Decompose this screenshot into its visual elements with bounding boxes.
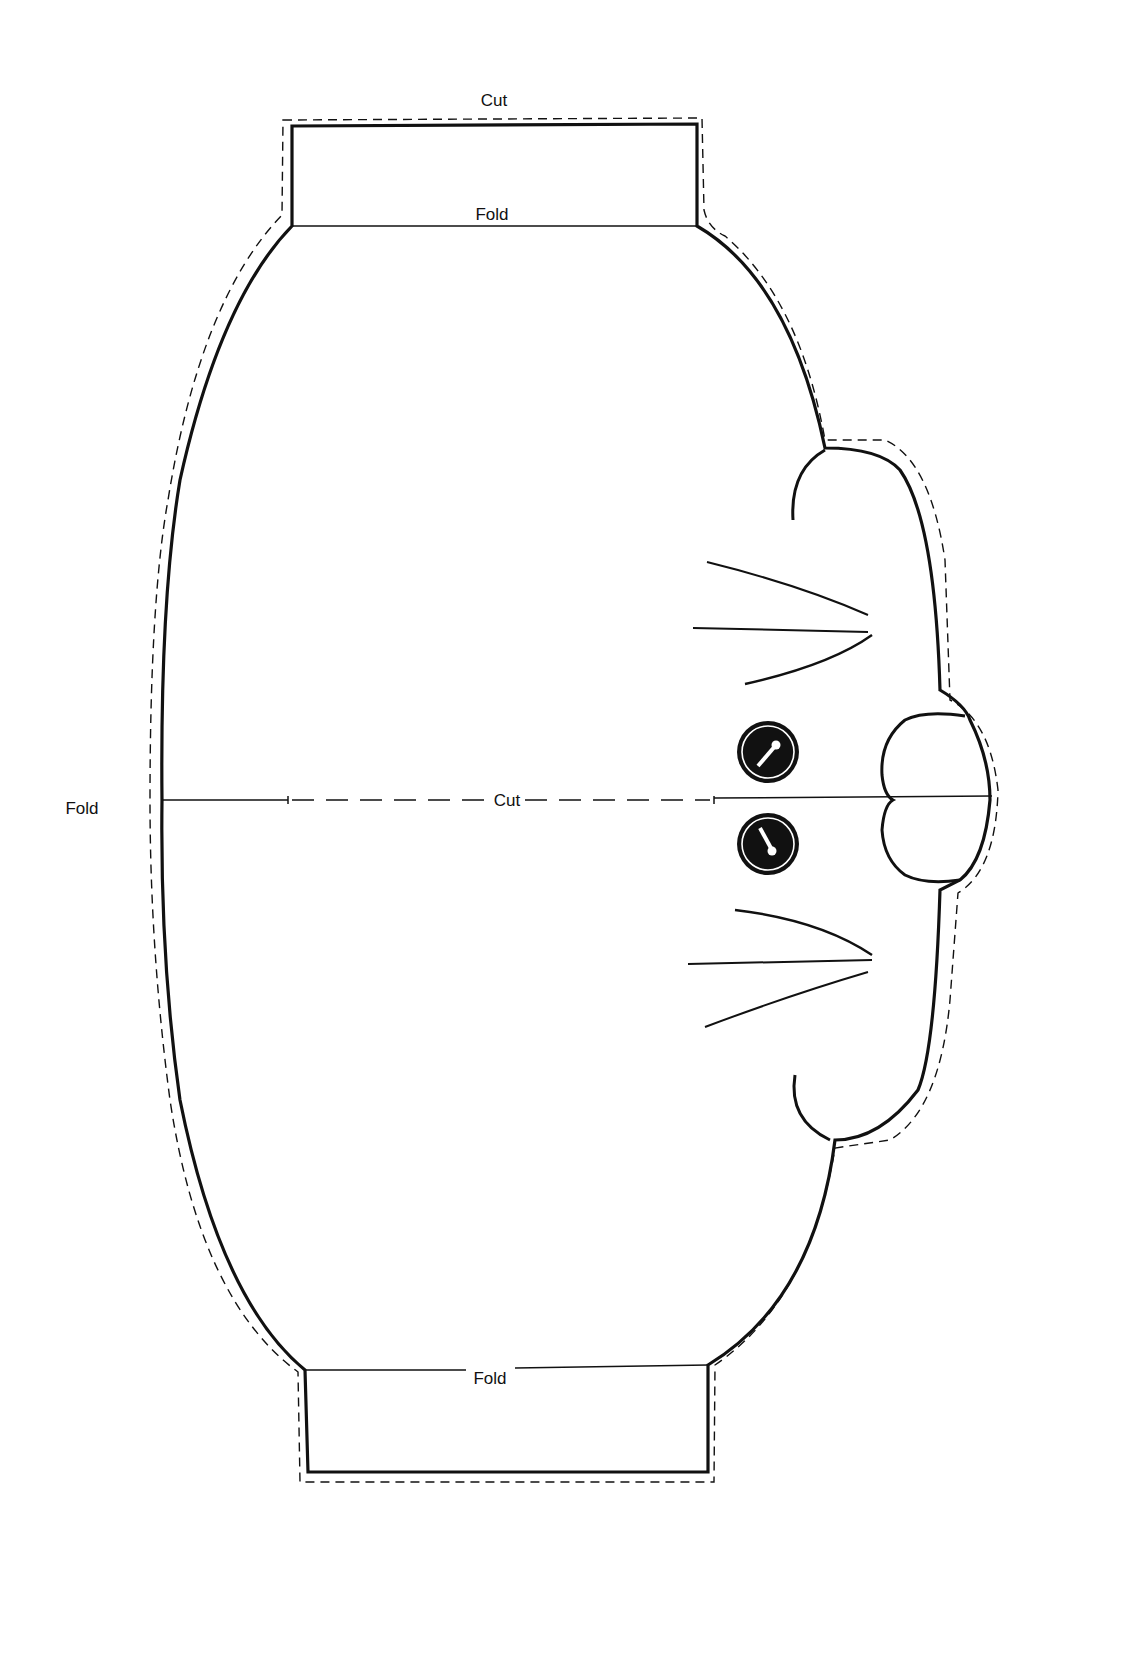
upper-whisker-1 [707, 562, 868, 615]
lower-eye [737, 813, 799, 875]
nose [882, 714, 965, 882]
bottom-fold-label: Fold [473, 1369, 506, 1388]
lower-whisker-1 [735, 910, 872, 955]
left-fold-label: Fold [65, 799, 98, 818]
top-fold-label: Fold [475, 205, 508, 224]
lower-whisker-3 [705, 972, 868, 1027]
template-drawing: Cut Fold Cut Fold Fold [0, 0, 1133, 1673]
upper-ear [793, 450, 825, 520]
top-cut-label: Cut [481, 91, 508, 110]
lower-ear [794, 1075, 830, 1140]
upper-whisker-2 [693, 628, 868, 632]
lower-whisker-2 [688, 960, 872, 964]
upper-whisker-3 [745, 635, 872, 684]
bottom-fold-line-right [515, 1365, 708, 1368]
center-cut-label: Cut [494, 791, 521, 810]
upper-eye [737, 721, 799, 783]
center-line-right [714, 796, 992, 798]
body-outline [162, 124, 990, 1472]
